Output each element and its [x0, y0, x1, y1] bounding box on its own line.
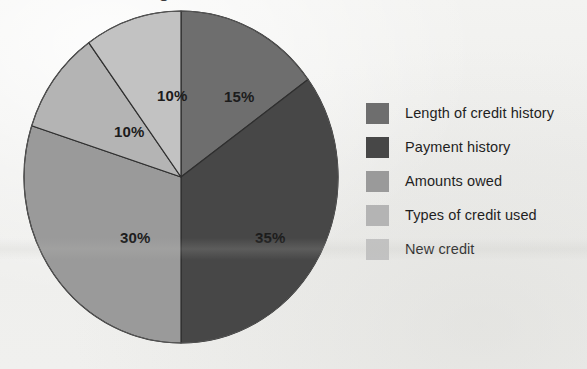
- legend-item[interactable]: Amounts owed: [366, 164, 584, 198]
- pie-chart: 15%35%30%10%10%: [22, 10, 342, 346]
- pie-slice-percent-label: 30%: [120, 229, 151, 246]
- cropped-title-fragment: o: [158, 0, 218, 4]
- legend-color-swatch: [366, 205, 389, 226]
- legend-item[interactable]: Length of credit history: [366, 96, 584, 130]
- legend-color-swatch: [366, 171, 389, 192]
- pie-slice-percent-label: 10%: [114, 123, 145, 140]
- legend-item-label: Length of credit history: [405, 105, 554, 121]
- pie-chart-svg: [22, 10, 342, 346]
- pie-slice-percent-label: 35%: [255, 229, 286, 246]
- legend-item[interactable]: Payment history: [366, 130, 584, 164]
- legend-item-label: New credit: [405, 241, 475, 257]
- legend-item-label: Types of credit used: [405, 207, 537, 223]
- legend-color-swatch: [366, 103, 389, 124]
- chart-legend: Length of credit historyPayment historyA…: [366, 96, 584, 266]
- legend-color-swatch: [366, 137, 389, 158]
- legend-color-swatch: [366, 239, 389, 260]
- legend-item[interactable]: Types of credit used: [366, 198, 584, 232]
- legend-item-label: Payment history: [405, 139, 510, 155]
- legend-item[interactable]: New credit: [366, 232, 584, 266]
- pie-slice-group: [24, 11, 338, 343]
- pie-slice-percent-label: 15%: [224, 88, 255, 105]
- pie-slice-percent-label: 10%: [157, 87, 188, 104]
- legend-item-label: Amounts owed: [405, 173, 502, 189]
